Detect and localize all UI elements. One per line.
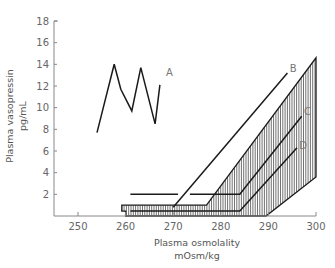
y-ticks: 24681012141618 xyxy=(36,16,58,200)
series-label-c: C xyxy=(304,106,311,117)
y-axis-unit: pg/mL xyxy=(17,100,28,131)
hatch-lines xyxy=(122,21,315,216)
x-tick-label: 260 xyxy=(116,221,135,232)
normal-range-region xyxy=(122,21,316,216)
series: ABCD xyxy=(97,63,311,212)
x-axis-unit: mOsm/kg xyxy=(174,250,220,261)
series-label-d: D xyxy=(299,140,307,151)
x-tick-label: 280 xyxy=(211,221,230,232)
x-tick-label: 270 xyxy=(164,221,183,232)
series-line-a xyxy=(97,64,160,132)
series-a: A xyxy=(97,64,173,132)
x-tick-label: 290 xyxy=(259,221,278,232)
y-tick-label: 18 xyxy=(36,16,49,27)
y-tick-label: 4 xyxy=(43,167,49,178)
series-c: C xyxy=(130,106,311,194)
y-tick-label: 2 xyxy=(43,189,49,200)
x-axis-label: Plasma osmolality xyxy=(154,237,241,248)
normal-range-outline xyxy=(122,58,316,216)
y-tick-label: 16 xyxy=(36,37,49,48)
series-line-b xyxy=(173,73,287,207)
y-axis-label: Plasma vasopressin xyxy=(4,69,15,163)
axes: 24681012141618 250260270280290300 xyxy=(36,16,325,233)
series-label-b: B xyxy=(290,63,297,74)
y-tick-label: 10 xyxy=(36,102,49,113)
series-label-a: A xyxy=(166,67,173,78)
y-tick-label: 8 xyxy=(43,124,49,135)
y-tick-label: 6 xyxy=(43,146,49,157)
x-tick-label: 300 xyxy=(306,221,325,232)
chart: 24681012141618 250260270280290300 ABCD P… xyxy=(0,0,335,268)
y-tick-label: 14 xyxy=(36,59,49,70)
x-ticks: 250260270280290300 xyxy=(68,212,325,232)
y-tick-label: 12 xyxy=(36,81,49,92)
x-tick-label: 250 xyxy=(68,221,87,232)
